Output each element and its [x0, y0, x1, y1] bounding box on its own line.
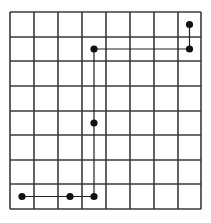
grid-canvas	[0, 0, 211, 223]
path-node	[90, 119, 97, 126]
path-node	[186, 45, 193, 52]
grid-diagram	[0, 0, 211, 223]
path-node	[90, 45, 97, 52]
path-node	[18, 193, 25, 200]
grid-lines	[10, 12, 201, 209]
path-node	[186, 21, 193, 28]
path-node	[90, 193, 97, 200]
path-node	[66, 193, 73, 200]
